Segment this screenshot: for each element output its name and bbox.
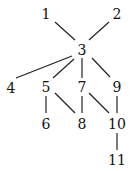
node-1: 1 xyxy=(42,6,51,22)
node-4: 4 xyxy=(7,80,16,96)
edges-layer xyxy=(16,22,117,150)
node-8: 8 xyxy=(78,116,87,132)
edge-2-3 xyxy=(89,22,109,40)
node-10: 10 xyxy=(108,116,126,132)
node-7: 7 xyxy=(78,79,87,95)
graph-diagram: 1234579681011 xyxy=(0,0,130,171)
edge-3-4 xyxy=(16,56,72,78)
edge-3-9 xyxy=(92,58,110,77)
node-3: 3 xyxy=(78,42,87,58)
node-5: 5 xyxy=(42,79,51,95)
node-2: 2 xyxy=(113,6,122,22)
node-9: 9 xyxy=(113,79,122,95)
nodes-layer: 1234579681011 xyxy=(7,6,126,168)
edge-7-10 xyxy=(89,93,109,113)
node-11: 11 xyxy=(108,152,126,168)
node-6: 6 xyxy=(42,116,51,132)
edge-5-8 xyxy=(55,93,75,113)
edge-1-3 xyxy=(55,22,75,40)
